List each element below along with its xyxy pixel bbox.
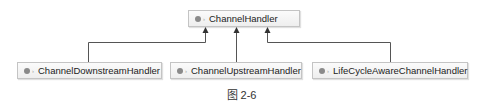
arrowhead-icon [203, 27, 209, 33]
node-label: LifeCycleAwareChannelHandler [333, 65, 467, 76]
node-channel-upstream-handler: › ChannelUpstreamHandler [170, 62, 302, 79]
node-channel-downstream-handler: › ChannelDownstreamHandler [17, 62, 162, 79]
arrowhead-icon [234, 27, 240, 33]
interface-icon: › [177, 68, 187, 74]
node-lifecycle-aware-channel-handler: › LifeCycleAwareChannelHandler [312, 62, 468, 79]
interface-icon: › [24, 68, 34, 74]
node-label: ChannelDownstreamHandler [38, 65, 160, 76]
arrowhead-icon [265, 27, 271, 33]
node-channel-handler: › ChannelHandler [188, 10, 300, 27]
interface-icon: › [319, 68, 329, 74]
figure-caption: 图 2-6 [0, 86, 483, 102]
node-label: ChannelUpstreamHandler [191, 65, 301, 76]
node-label: ChannelHandler [209, 13, 278, 24]
edge-downstream [89, 30, 206, 62]
interface-icon: › [195, 16, 205, 22]
edge-lifecycle [268, 30, 391, 62]
